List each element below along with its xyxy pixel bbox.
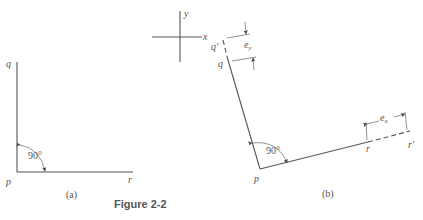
angle-label: 90° xyxy=(28,150,42,161)
panel-a-label: (a) xyxy=(66,189,77,201)
point-q-label: q xyxy=(218,58,223,69)
ex-arrow-right-icon xyxy=(394,114,405,117)
ey-extension-top xyxy=(227,34,250,38)
point-r-label: r xyxy=(128,174,132,185)
point-p-label: p xyxy=(253,173,259,184)
ey-label: ey xyxy=(244,39,252,52)
y-axis-label: y xyxy=(183,8,189,19)
point-q-prime-label: q' xyxy=(211,41,219,52)
point-p-label: p xyxy=(5,176,11,187)
point-r-prime-label: r' xyxy=(408,139,415,150)
x-axis-label: x xyxy=(202,31,208,42)
ey-extension-bottom xyxy=(232,57,256,61)
segment-rr-prime xyxy=(368,131,410,142)
figure-canvas: q p r 90° (a) y x 90° ey ex q' q p r xyxy=(0,0,423,220)
ex-label: ex xyxy=(380,112,388,125)
panel-b: 90° ey ex q' q p r r' (b) xyxy=(211,22,415,200)
point-q-label: q xyxy=(6,58,11,69)
point-r-label: r xyxy=(366,143,370,154)
segment-qq-prime xyxy=(223,40,228,60)
segment-pq xyxy=(228,60,260,169)
angle-label: 90° xyxy=(266,145,280,156)
figure-caption: Figure 2-2 xyxy=(114,198,167,210)
panel-a: q p r 90° (a) xyxy=(5,58,133,201)
ey-arrow-top-icon xyxy=(245,22,246,34)
ex-extension-right xyxy=(405,112,407,130)
ex-arrow-left-icon xyxy=(367,121,379,124)
ey-arrow-bottom-icon xyxy=(253,58,254,70)
ex-extension-left xyxy=(366,122,367,140)
panel-b-label: (b) xyxy=(322,188,334,200)
axis-cross: y x xyxy=(152,8,208,62)
